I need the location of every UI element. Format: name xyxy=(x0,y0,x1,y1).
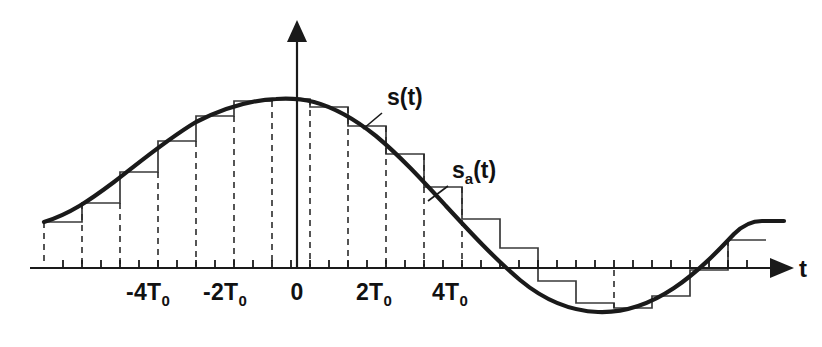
signal-sampling-diagram: -4T0 -2T0 0 2T0 4T0 t s(t) sa(t) xyxy=(0,0,822,347)
right-arrow-icon xyxy=(770,258,794,278)
figure-root: -4T0 -2T0 0 2T0 4T0 t s(t) sa(t) xyxy=(0,0,822,347)
x-axis-tick-labels: -4T0 -2T0 0 2T0 4T0 xyxy=(126,279,468,309)
tick-label-minus4T0: -4T0 xyxy=(126,279,170,309)
x-axis-label: t xyxy=(799,255,807,282)
staircase-path xyxy=(44,99,766,308)
tick-label-2T0: 2T0 xyxy=(356,279,392,309)
tick-label-minus2T0: -2T0 xyxy=(203,279,247,309)
annotation-s-of-t: s(t) xyxy=(363,84,423,129)
tick-label-4T0: 4T0 xyxy=(432,279,468,309)
label-s-of-t: s(t) xyxy=(387,84,423,110)
up-arrow-icon xyxy=(287,20,307,42)
dashed-drop-lines xyxy=(44,99,728,308)
y-axis xyxy=(287,20,307,268)
x-axis xyxy=(30,258,794,278)
label-sa-of-t: sa(t) xyxy=(452,157,496,187)
x-axis-ticks xyxy=(63,260,747,268)
tick-label-zero: 0 xyxy=(290,279,303,305)
staircase-approximation xyxy=(44,99,766,308)
